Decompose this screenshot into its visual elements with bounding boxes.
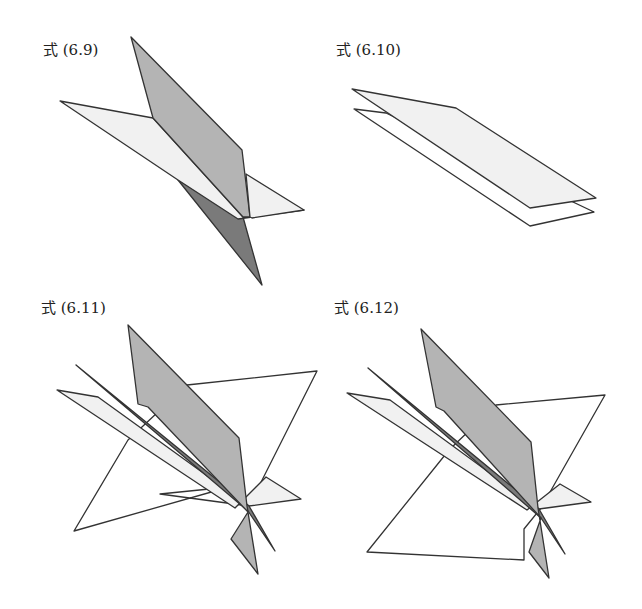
plane-b-right-polygon	[246, 174, 304, 218]
panel-label-6-12: 式 (6.12)	[334, 299, 399, 317]
panel-6-9: 式 (6.9)	[43, 37, 304, 285]
plane-upper-polygon	[352, 89, 596, 208]
panel-label-6-11: 式 (6.11)	[41, 299, 106, 317]
diagram-canvas: 式 (6.9) 式 (6.10) 式 (6.11) 式 (6.12)	[0, 0, 642, 609]
panel-6-10: 式 (6.10)	[336, 41, 596, 226]
panel-label-6-10: 式 (6.10)	[336, 41, 401, 59]
panel-label-6-9: 式 (6.9)	[43, 41, 98, 59]
panel-6-11: 式 (6.11)	[41, 299, 317, 574]
panel-6-12: 式 (6.12)	[334, 299, 605, 578]
